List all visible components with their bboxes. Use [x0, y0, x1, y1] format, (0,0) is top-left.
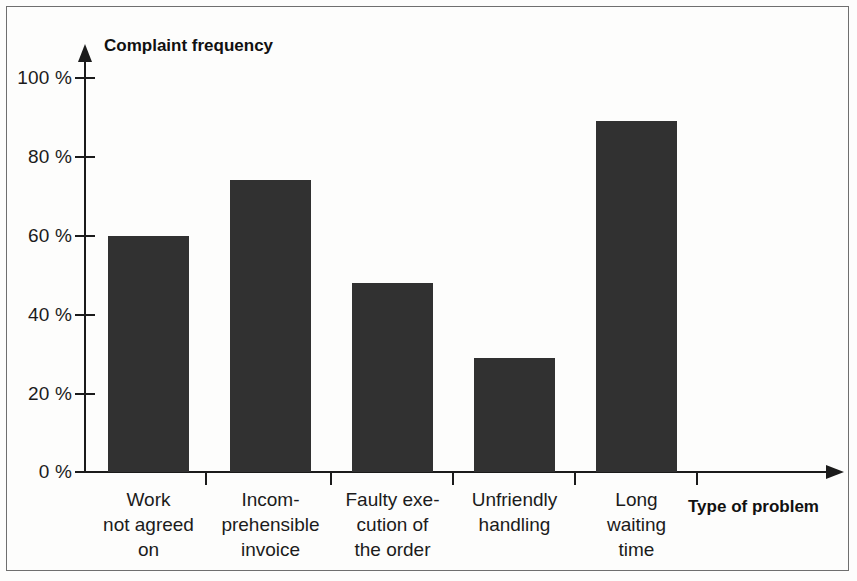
x-category-label-2: Incom- prehensible invoice — [210, 487, 331, 562]
bar-incomprehensible-invoice — [230, 180, 311, 472]
bar-unfriendly-handling — [474, 358, 555, 472]
y-axis-line — [84, 60, 86, 473]
x-tick-2 — [330, 472, 332, 485]
bar-long-waiting-time — [596, 121, 677, 472]
y-axis-label-20: 20 % — [0, 383, 72, 405]
y-tick-40 — [75, 314, 95, 316]
y-axis-arrow-icon — [78, 44, 92, 62]
y-axis-label-100: 100 % — [0, 67, 72, 89]
x-axis-arrow-icon — [826, 465, 844, 479]
x-category-label-4: Unfriendly handling — [454, 487, 575, 537]
x-axis-title: Type of problem — [688, 497, 819, 517]
x-tick-5 — [696, 472, 698, 485]
plot-area: 100 % 80 % 60 % 40 % 20 % 0 % Work not a… — [0, 0, 857, 581]
y-tick-0 — [75, 471, 95, 473]
y-axis-label-80: 80 % — [0, 146, 72, 168]
x-tick-4 — [574, 472, 576, 485]
y-tick-100 — [75, 77, 95, 79]
y-axis-label-0: 0 % — [0, 461, 72, 483]
y-tick-20 — [75, 393, 95, 395]
y-axis-label-40: 40 % — [0, 304, 72, 326]
x-axis-line — [84, 471, 836, 473]
chart-figure: 100 % 80 % 60 % 40 % 20 % 0 % Work not a… — [0, 0, 857, 581]
bar-work-not-agreed-on — [108, 236, 189, 472]
x-category-label-5: Long waiting time — [576, 487, 697, 562]
y-axis-title: Complaint frequency — [104, 36, 273, 56]
x-category-label-3: Faulty exe- cution of the order — [332, 487, 453, 562]
x-tick-3 — [452, 472, 454, 485]
x-category-label-1: Work not agreed on — [88, 487, 209, 562]
y-tick-80 — [75, 156, 95, 158]
bar-faulty-execution-of-the-order — [352, 283, 433, 472]
x-tick-1 — [205, 472, 207, 485]
y-tick-60 — [75, 235, 95, 237]
y-axis-label-60: 60 % — [0, 225, 72, 247]
